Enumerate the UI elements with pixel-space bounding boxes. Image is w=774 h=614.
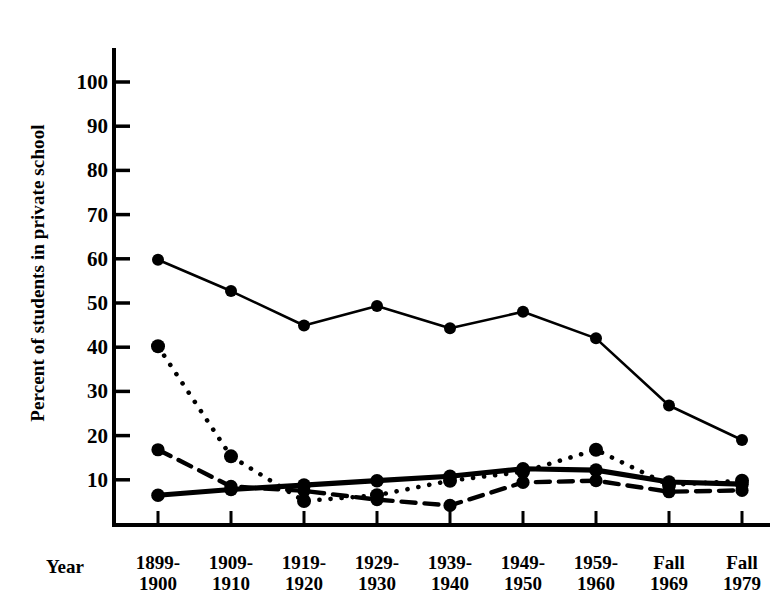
x-axis-tick-label: 1939-1940 — [428, 552, 472, 595]
series-thin-solid-point — [152, 254, 164, 266]
series-dotted-point — [151, 339, 165, 353]
series-thin-solid-point — [736, 434, 748, 446]
x-axis-tick-label-line: 1959- — [574, 552, 618, 573]
x-axis-tick-label-line: 1899- — [136, 552, 180, 573]
x-axis-tick-label: 1899-1900 — [136, 552, 180, 595]
x-axis-tick-label-line: 1910 — [209, 573, 253, 594]
series-thin-solid-point — [663, 400, 675, 412]
series-thin-solid-point — [371, 300, 383, 312]
x-axis-tick-label-line: 1939- — [428, 552, 472, 573]
axes-group — [112, 48, 770, 525]
series-thin-solid-line — [158, 260, 742, 440]
series-thin-solid-point — [225, 285, 237, 297]
series-dashed-point — [443, 499, 456, 512]
x-axis-tick-label-line: 1969 — [650, 573, 688, 594]
x-axis-label: Year — [46, 556, 84, 578]
x-axis-tick-label: Fall1969 — [650, 552, 688, 595]
series-thin-solid-point — [298, 320, 310, 332]
x-axis-tick-label-line: 1900 — [136, 573, 180, 594]
series-thick-solid-point — [589, 463, 603, 477]
x-axis-tick-label: 1949-1950 — [501, 552, 545, 595]
series-thick-solid-point — [297, 478, 311, 492]
series-thick-solid-point — [516, 462, 530, 476]
x-axis-tick-label: 1959-1960 — [574, 552, 618, 595]
x-axis-tick-label-line: 1979 — [723, 573, 761, 594]
x-axis-tick-label-line: 1920 — [282, 573, 326, 594]
x-axis-tick-label-line: Fall — [723, 552, 761, 573]
x-axis-tick-label: 1929-1930 — [355, 552, 399, 595]
series-dotted-point — [224, 449, 238, 463]
series-thick-solid-point — [443, 469, 457, 483]
x-axis-tick-label: 1919-1920 — [282, 552, 326, 595]
series-dashed-point — [370, 493, 383, 506]
plot-area — [0, 0, 774, 614]
x-axis-tick-label-group: 1899-19001909-19101919-19201929-19301939… — [0, 546, 774, 608]
chart-figure: Percent of students in private school 10… — [0, 0, 774, 614]
series-thin-solid-point — [444, 322, 456, 334]
x-axis-tick-label-line: 1940 — [428, 573, 472, 594]
series-dashed-point — [516, 476, 529, 489]
x-axis-tick-label-line: 1919- — [282, 552, 326, 573]
x-axis-tick-label: 1909-1910 — [209, 552, 253, 595]
series-thick-solid-point — [151, 488, 165, 502]
series-thick-solid-point — [370, 474, 384, 488]
series-dashed-point — [151, 443, 164, 456]
series-thick-solid-point — [224, 483, 238, 497]
x-axis-tick-label-line: 1930 — [355, 573, 399, 594]
x-axis-tick-label-line: 1949- — [501, 552, 545, 573]
x-axis-tick-label-line: Fall — [650, 552, 688, 573]
series-thin-solid-point — [590, 332, 602, 344]
series-group — [151, 254, 749, 512]
series-thick-solid-point — [735, 477, 749, 491]
x-axis-tick-label-line: 1950 — [501, 573, 545, 594]
series-thin-solid-point — [517, 306, 529, 318]
series-dotted-point — [589, 443, 603, 457]
x-axis-tick-label-line: 1960 — [574, 573, 618, 594]
x-axis-tick-label: Fall1979 — [723, 552, 761, 595]
x-axis-tick-label-line: 1909- — [209, 552, 253, 573]
series-thick-solid-point — [662, 475, 676, 489]
x-axis-tick-label-line: 1929- — [355, 552, 399, 573]
